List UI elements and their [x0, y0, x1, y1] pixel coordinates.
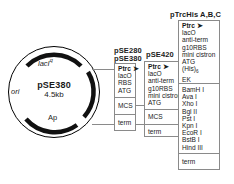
- restriction-site-ecori: EcoR I: [182, 129, 217, 136]
- feature-term-ptrchis: term: [182, 158, 217, 165]
- feature-label-ori: ori: [11, 88, 19, 96]
- feature-minicistron-pse420: mini cistron: [148, 92, 179, 99]
- column-heading-ptrchis: pTrcHis A,B,C: [170, 10, 221, 19]
- segment-term-ptrchis: term: [179, 154, 219, 169]
- feature-rbs-pse280: RBS: [118, 79, 133, 86]
- promoter-arrow-icon: ➤: [133, 65, 139, 72]
- segment-term-pse420: term: [145, 125, 181, 138]
- promoter-arrow-icon: ➤: [197, 22, 203, 29]
- restriction-site-bglii: Bgl II: [182, 108, 217, 115]
- feature-mcs-pse420: MCS: [148, 113, 179, 120]
- restriction-site-xhoi: Xho I: [182, 100, 217, 107]
- feature-g10rbs-pse420: g10RBS: [148, 85, 179, 92]
- feature-box-ptrchis: Ptrc ➤ lacO anti-term g10RBS mini cistro…: [178, 20, 220, 170]
- column-heading-pse420: pSE420: [146, 50, 174, 59]
- segment-term-pse280: term: [115, 115, 135, 132]
- restriction-site-kpni: Kpn I: [182, 122, 217, 129]
- feature-box-pse280-pse380: Ptrc ➤ lacO RBS ATG MCS term: [114, 63, 136, 131]
- feature-laco-pse420: lacO: [148, 70, 179, 77]
- feature-ptrc-pse280-text: Ptrc: [118, 65, 131, 72]
- feature-atg-ptrchis: ATG: [182, 58, 217, 65]
- segment-promoter-pse420: Ptrc ➤ lacO anti-term g10RBS mini cistro…: [145, 62, 181, 110]
- segment-mcs-pse420: MCS: [145, 110, 181, 125]
- feature-term-pse280: term: [118, 119, 133, 126]
- feature-ptrc-ptrchis-text: Ptrc: [182, 22, 195, 29]
- segment-promoter-pse280: Ptrc ➤ lacO RBS ATG: [115, 64, 135, 98]
- plasmid-name-label: pSE380: [8, 80, 100, 90]
- feature-label-laci-superscript: q: [50, 57, 53, 63]
- restriction-site-avai: Ava I: [182, 93, 217, 100]
- feature-antiterm-ptrchis: anti-term: [182, 36, 217, 43]
- arc-laciq: [27, 55, 81, 66]
- plasmid-diagram: pSE380 4.5kb lacIq ori Ap pSE280 pSE380 …: [0, 0, 234, 184]
- feature-his-tag-ptrchis: (His)6: [182, 65, 217, 76]
- plasmid-size-label: 4.5kb: [8, 90, 100, 99]
- feature-ptrc-ptrchis: Ptrc ➤: [182, 22, 217, 29]
- segment-mcs-pse280: MCS: [115, 98, 135, 115]
- connector-promoter-pse280: [92, 69, 115, 70]
- feature-atg-pse280: ATG: [118, 87, 133, 94]
- feature-laco-pse280: lacO: [118, 72, 133, 79]
- feature-term-pse420: term: [148, 128, 179, 135]
- feature-box-pse420: Ptrc ➤ lacO anti-term g10RBS mini cistro…: [144, 61, 182, 137]
- restriction-site-hindiii: Hind III: [182, 144, 217, 151]
- plasmid-map-pse380: pSE380 4.5kb lacIq ori Ap: [8, 46, 100, 138]
- promoter-arrow-icon: ➤: [163, 63, 169, 70]
- feature-label-laci-text: lacI: [38, 59, 50, 68]
- segment-restriction-sites-ptrchis: BamH I Ava I Xho I Bgl II Pst I Kpn I Ec…: [179, 84, 219, 154]
- feature-label-laciq: lacIq: [38, 56, 53, 68]
- connector-term-pse280: [92, 124, 115, 125]
- restriction-site-bstbi: BstB I: [182, 136, 217, 143]
- feature-ek-site-ptrchis: EK: [182, 76, 217, 83]
- feature-ptrc-pse280: Ptrc ➤: [118, 65, 133, 72]
- feature-laco-ptrchis: lacO: [182, 29, 217, 36]
- segment-promoter-ptrchis: Ptrc ➤ lacO anti-term g10RBS mini cistro…: [179, 21, 219, 84]
- feature-mcs-pse280: MCS: [118, 102, 133, 109]
- feature-ptrc-pse420: Ptrc ➤: [148, 63, 179, 70]
- feature-g10rbs-ptrchis: g10RBS: [182, 44, 217, 51]
- restriction-site-bamhi: BamH I: [182, 86, 217, 93]
- feature-minicistron-ptrchis: mini cistron: [182, 51, 217, 58]
- column-heading-pse380: pSE380: [114, 54, 142, 63]
- restriction-site-psti: Pst I: [182, 115, 217, 122]
- feature-label-ap: Ap: [48, 114, 57, 122]
- feature-antiterm-pse420: anti-term: [148, 77, 179, 84]
- feature-ptrc-pse420-text: Ptrc: [148, 63, 161, 70]
- feature-atg-pse420: ATG: [148, 99, 179, 106]
